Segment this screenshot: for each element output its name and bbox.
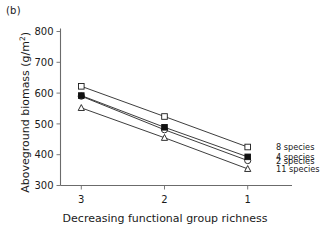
marker-open-square [79,84,85,90]
series-layer [78,84,251,172]
y-tick-label: 700 [34,57,53,68]
x-tick-label: 3 [78,194,84,205]
x-tick-label: 2 [161,194,167,205]
y-tick-label: 300 [34,180,53,191]
chart-legend: 8 species4 species2 species11 species [276,142,320,174]
x-tick-label: 1 [245,194,251,205]
x-axis-ticks: 321 [78,186,251,205]
marker-filled-square [162,124,168,130]
chart-canvas: 300400500600700800 321 8 species4 specie… [0,0,322,235]
y-tick-label: 500 [34,119,53,130]
marker-filled-square [245,154,251,160]
legend-label: 8 species [276,142,314,152]
y-tick-label: 400 [34,149,53,160]
marker-filled-square [79,93,85,99]
figure-panel: (b) Aboveground biomass (g/m2) Decreasin… [0,0,322,235]
marker-open-triangle [78,105,84,111]
y-axis-ticks: 300400500600700800 [34,26,60,191]
legend-label: 11 species [276,164,320,174]
y-tick-label: 600 [34,88,53,99]
marker-open-square [245,144,251,150]
marker-open-triangle [245,166,251,172]
series-4-species [79,93,251,160]
marker-open-square [162,114,168,120]
y-tick-label: 800 [34,26,53,37]
